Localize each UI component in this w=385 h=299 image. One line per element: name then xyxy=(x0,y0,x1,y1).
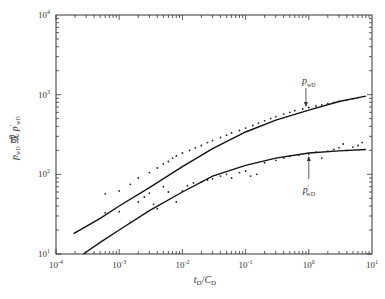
data-point xyxy=(357,97,359,99)
data-point xyxy=(283,113,285,115)
data-point xyxy=(298,154,300,156)
data-point xyxy=(129,183,131,185)
data-point xyxy=(308,107,310,109)
y-tick-label: 101 xyxy=(38,248,50,259)
x-axis-label: tD/CD xyxy=(194,274,216,287)
data-point xyxy=(264,120,266,122)
data-point xyxy=(118,211,120,213)
data-point xyxy=(352,146,354,148)
data-point xyxy=(239,172,241,174)
data-point xyxy=(207,179,209,181)
data-point xyxy=(275,116,277,118)
data-point xyxy=(289,155,291,157)
data-point xyxy=(352,98,354,100)
data-point xyxy=(220,175,222,177)
data-point xyxy=(357,145,359,147)
data-point xyxy=(289,111,291,113)
svg-text:pwD 或 p′wD: pwD 或 p′wD xyxy=(8,115,21,161)
data-point xyxy=(175,201,177,203)
data-point xyxy=(143,196,145,198)
data-point xyxy=(182,152,184,154)
data-point xyxy=(239,130,241,132)
data-point xyxy=(264,162,266,164)
data-point xyxy=(104,212,106,214)
data-point xyxy=(302,108,304,110)
data-point xyxy=(256,173,258,175)
data-point xyxy=(315,105,317,107)
data-point xyxy=(245,127,247,129)
y-axis-label: pwD 或 p′wD xyxy=(8,115,21,161)
annotation-label: p′wD xyxy=(302,183,316,197)
data-point xyxy=(168,191,170,193)
data-point xyxy=(172,157,174,159)
data-point xyxy=(168,161,170,163)
data-point xyxy=(226,173,228,175)
data-point xyxy=(193,182,195,184)
arrowhead-icon xyxy=(304,102,308,107)
data-point xyxy=(156,167,158,169)
measured-points xyxy=(104,97,363,224)
x-tick-label: 10-1 xyxy=(239,259,253,270)
data-point xyxy=(361,142,363,144)
data-point xyxy=(118,190,120,192)
data-point xyxy=(201,145,203,147)
data-point xyxy=(149,192,151,194)
x-tick-label: 100 xyxy=(303,259,315,270)
series-line-0 xyxy=(74,96,366,234)
data-point xyxy=(245,170,247,172)
annotations: pwDp′wD xyxy=(301,75,316,197)
data-point xyxy=(231,132,233,134)
data-point xyxy=(220,137,222,139)
data-point xyxy=(182,190,184,192)
data-point xyxy=(226,134,228,136)
chart: 10-410-310-210-1100101 101102103104 pwDp… xyxy=(0,0,385,299)
model-curves xyxy=(74,96,366,254)
x-tick-label: 10-4 xyxy=(49,259,63,270)
data-point xyxy=(283,157,285,159)
data-point xyxy=(327,150,329,152)
data-point xyxy=(212,178,214,180)
data-point xyxy=(258,122,260,124)
data-point xyxy=(231,177,233,179)
data-point xyxy=(149,172,151,174)
data-point xyxy=(207,142,209,144)
data-point xyxy=(338,147,340,149)
data-point xyxy=(333,102,335,104)
data-point xyxy=(294,110,296,112)
data-point xyxy=(153,203,155,205)
data-point xyxy=(163,163,165,165)
data-point xyxy=(163,186,165,188)
data-point xyxy=(252,125,254,127)
data-point xyxy=(321,104,323,106)
data-point xyxy=(315,151,317,153)
data-point xyxy=(137,177,139,179)
data-point xyxy=(342,143,344,145)
x-tick-label: 10-3 xyxy=(112,259,126,270)
data-point xyxy=(194,147,196,149)
y-tick-label: 103 xyxy=(38,89,50,100)
plot-frame xyxy=(56,15,372,254)
data-point xyxy=(189,150,191,152)
data-point xyxy=(187,185,189,187)
data-point xyxy=(327,103,329,105)
x-tick-labels: 10-410-310-210-1100101 xyxy=(49,259,378,270)
arrowhead-icon xyxy=(307,156,311,161)
data-point xyxy=(201,181,203,183)
annotation-label: pwD xyxy=(301,75,316,88)
data-point xyxy=(333,149,335,151)
data-point xyxy=(346,99,348,101)
minor-ticks xyxy=(56,15,372,254)
data-point xyxy=(212,140,214,142)
y-tick-label: 104 xyxy=(38,9,50,20)
data-point xyxy=(175,155,177,157)
data-point xyxy=(338,101,340,103)
data-point xyxy=(156,208,158,210)
data-point xyxy=(321,157,323,159)
data-point xyxy=(129,221,131,223)
data-point xyxy=(308,153,310,155)
data-point xyxy=(346,150,348,152)
data-point xyxy=(270,118,272,120)
y-tick-labels: 101102103104 xyxy=(38,9,50,259)
data-point xyxy=(250,175,252,177)
x-tick-label: 101 xyxy=(366,259,378,270)
